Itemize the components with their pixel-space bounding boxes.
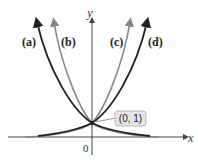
label-d: (d) [148,35,163,49]
label-a: (a) [22,35,36,49]
y-axis-label: y [86,6,93,20]
point-label: (0, 1) [119,113,142,124]
exponential-graphs-diagram: (0, 1) (a) (b) (c) (d) y x 0 [0,0,198,160]
label-c: (c) [110,35,123,49]
label-b: (b) [61,35,76,49]
x-axis-label: x [187,131,194,145]
origin-label: 0 [83,142,89,154]
intersection-point [90,121,94,125]
